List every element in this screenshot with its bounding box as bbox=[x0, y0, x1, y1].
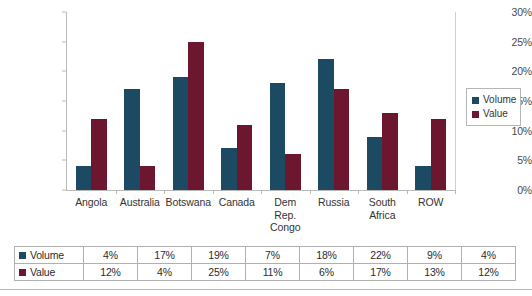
x-axis-label-line: Angola bbox=[67, 196, 116, 209]
x-axis-label: DemRep.Congo bbox=[261, 196, 310, 234]
x-axis-label: SouthAfrica bbox=[358, 196, 407, 221]
bar-groups bbox=[67, 12, 455, 190]
x-axis-tick-mark bbox=[358, 190, 359, 194]
x-axis-label-line: Russia bbox=[310, 196, 359, 209]
x-axis-label: Russia bbox=[310, 196, 359, 209]
legend-label: Value bbox=[483, 107, 508, 121]
y-axis-tick-label: 25% bbox=[474, 36, 532, 48]
bar-group bbox=[407, 12, 456, 190]
bar-volume bbox=[221, 148, 237, 190]
table-cell: 4% bbox=[84, 247, 138, 264]
y-axis-tick-mark bbox=[62, 101, 66, 102]
x-axis-label-line: South bbox=[358, 196, 407, 209]
y-axis-tick-label: 0% bbox=[474, 184, 532, 196]
data-table: Volume4%17%19%7%18%22%9%4%Value12%4%25%1… bbox=[14, 246, 516, 281]
table-row: Value12%4%25%11%6%17%13%12% bbox=[15, 264, 516, 281]
table-cell: 19% bbox=[192, 247, 246, 264]
y-axis-tick-label: 20% bbox=[474, 65, 532, 77]
plot-area: 0%5%10%15%20%25%30% AngolaAustraliaBotsw… bbox=[0, 0, 532, 240]
bar-value bbox=[334, 89, 350, 190]
x-axis-label: Botswana bbox=[164, 196, 213, 209]
table-cell: 17% bbox=[138, 247, 192, 264]
y-axis-tick-mark bbox=[62, 12, 66, 13]
legend-label: Volume bbox=[483, 93, 516, 107]
y-axis-tick-mark bbox=[62, 71, 66, 72]
bar-volume bbox=[415, 166, 431, 190]
bar-volume bbox=[318, 59, 334, 190]
y-axis-tick-mark bbox=[62, 130, 66, 131]
x-axis-tick-mark bbox=[213, 190, 214, 194]
x-axis-tick-mark bbox=[116, 190, 117, 194]
table-cell: 12% bbox=[84, 264, 138, 281]
x-axis-label-line: Australia bbox=[116, 196, 165, 209]
table-cell: 4% bbox=[138, 264, 192, 281]
x-axis-label-line: Botswana bbox=[164, 196, 213, 209]
x-axis-label: ROW bbox=[407, 196, 456, 209]
chart-legend: VolumeValue bbox=[466, 88, 521, 126]
x-axis-tick-mark bbox=[455, 190, 456, 194]
bar-volume bbox=[367, 137, 383, 190]
bar-volume bbox=[270, 83, 286, 190]
y-axis-tick-mark bbox=[62, 160, 66, 161]
bar-group bbox=[164, 12, 213, 190]
table-row: Volume4%17%19%7%18%22%9%4% bbox=[15, 247, 516, 264]
y-axis-tick-label: 5% bbox=[474, 154, 532, 166]
x-axis-label-line: Africa bbox=[358, 209, 407, 222]
x-axis-label: Angola bbox=[67, 196, 116, 209]
x-axis-label-line: Congo bbox=[261, 221, 310, 234]
table-cell: 22% bbox=[354, 247, 408, 264]
table-cell: 25% bbox=[192, 264, 246, 281]
x-axis-label-line: Canada bbox=[213, 196, 262, 209]
series-label: Value bbox=[30, 266, 55, 278]
bar-group bbox=[67, 12, 116, 190]
series-swatch-icon bbox=[19, 252, 26, 259]
grouped-bar-chart-figure: 0%5%10%15%20%25%30% AngolaAustraliaBotsw… bbox=[0, 0, 532, 296]
bar-group bbox=[261, 12, 310, 190]
bar-value bbox=[140, 166, 156, 190]
x-axis-label-line: ROW bbox=[407, 196, 456, 209]
legend-swatch-icon bbox=[472, 111, 479, 118]
y-axis-tick-mark bbox=[62, 190, 66, 191]
legend-item: Value bbox=[472, 107, 516, 121]
bar-value bbox=[188, 42, 204, 190]
table-row-header: Volume bbox=[15, 247, 84, 264]
x-axis-labels: AngolaAustraliaBotswanaCanadaDemRep.Cong… bbox=[67, 196, 455, 240]
series-swatch-icon bbox=[19, 269, 26, 276]
y-axis-tick-label: 30% bbox=[474, 6, 532, 18]
table-cell: 7% bbox=[246, 247, 300, 264]
bar-value bbox=[91, 119, 107, 190]
x-axis-tick-mark bbox=[310, 190, 311, 194]
table-cell: 18% bbox=[300, 247, 354, 264]
bar-volume bbox=[173, 77, 189, 190]
table-cell: 11% bbox=[246, 264, 300, 281]
bar-volume bbox=[124, 89, 140, 190]
series-label: Volume bbox=[30, 249, 64, 261]
x-axis-label: Canada bbox=[213, 196, 262, 209]
bar-value bbox=[285, 154, 301, 190]
bar-group bbox=[358, 12, 407, 190]
x-axis-label-line: Dem bbox=[261, 196, 310, 209]
table-cell: 13% bbox=[408, 264, 462, 281]
plot-right-border bbox=[455, 12, 456, 190]
table-cell: 6% bbox=[300, 264, 354, 281]
table-row-header: Value bbox=[15, 264, 84, 281]
legend-item: Volume bbox=[472, 93, 516, 107]
legend-swatch-icon bbox=[472, 97, 479, 104]
bar-value bbox=[237, 125, 253, 190]
x-axis-tick-mark bbox=[164, 190, 165, 194]
table-cell: 9% bbox=[408, 247, 462, 264]
bar-group bbox=[213, 12, 262, 190]
bar-group bbox=[116, 12, 165, 190]
bar-group bbox=[310, 12, 359, 190]
x-axis-tick-mark bbox=[407, 190, 408, 194]
x-axis-label-line: Rep. bbox=[261, 209, 310, 222]
bar-value bbox=[431, 119, 447, 190]
x-axis-label: Australia bbox=[116, 196, 165, 209]
x-axis-tick-mark bbox=[261, 190, 262, 194]
table-cell: 17% bbox=[354, 264, 408, 281]
table-cell: 12% bbox=[462, 264, 516, 281]
y-axis-tick-label: 10% bbox=[474, 125, 532, 137]
bottom-divider bbox=[0, 289, 532, 290]
bar-value bbox=[382, 113, 398, 190]
bar-volume bbox=[76, 166, 92, 190]
